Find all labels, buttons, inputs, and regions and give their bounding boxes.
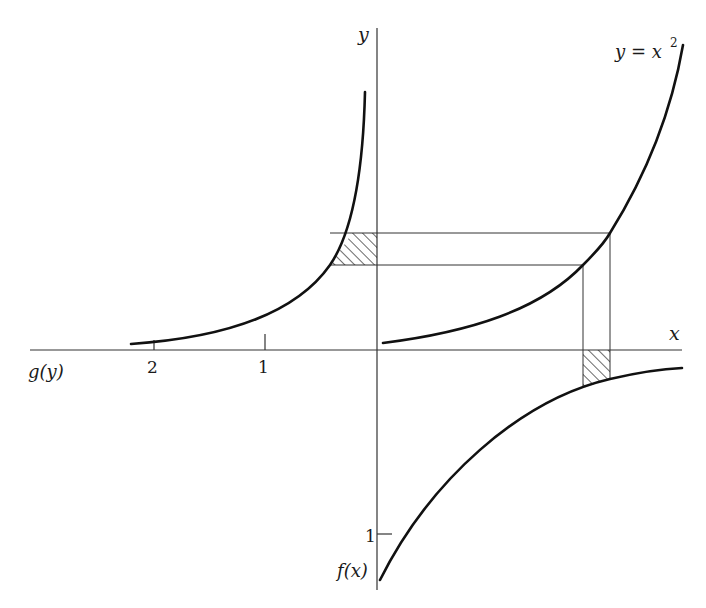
diagram-canvas: y x g(y) f(x) 2 1 1 y = x 2 [0, 0, 706, 608]
curve-label-exponent: 2 [670, 36, 678, 50]
tick-label-f-1: 1 [365, 526, 376, 546]
curve-label-y-equals-x-squared: y = x 2 [614, 36, 678, 62]
y-axis-label: y [357, 23, 369, 45]
curve-f-of-x [380, 368, 682, 580]
tick-label-1: 1 [258, 357, 269, 377]
f-axis-label: f(x) [335, 560, 368, 581]
tick-label-2: 2 [147, 357, 158, 377]
curve-y-equals-x-squared [383, 45, 683, 343]
hatched-region-left [330, 233, 377, 265]
x-axis-label: x [669, 322, 680, 344]
curve-label-text: y = x [614, 41, 662, 62]
g-axis-label: g(y) [28, 361, 64, 382]
curve-g-of-y [131, 92, 365, 344]
